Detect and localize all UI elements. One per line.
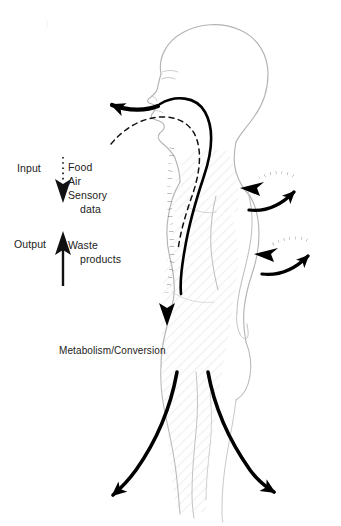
human-figure-diagram-canvas xyxy=(0,0,341,526)
eye-detail xyxy=(162,78,175,80)
body-hatch-fill xyxy=(161,208,238,512)
intake-item-air: Air xyxy=(68,174,107,188)
output-label: Output xyxy=(14,238,46,251)
brow-detail xyxy=(162,71,178,73)
input-label: Input xyxy=(17,162,41,175)
torso-back-outline xyxy=(244,196,259,342)
waste-item-products: products xyxy=(68,252,121,266)
mouth-exhale-arrow xyxy=(112,105,158,110)
waste-items-label: Waste products xyxy=(68,238,121,266)
diagram-root: Input Food Air Sensory data Output Waste… xyxy=(0,0,341,526)
lower-exchange-dotted-inbound-arrow xyxy=(254,238,307,262)
hand-outline xyxy=(237,312,249,339)
faint-top-mark xyxy=(46,18,48,29)
hip-outline xyxy=(236,342,251,400)
intake-items-label: Food Air Sensory data xyxy=(68,160,107,216)
nostril-detail xyxy=(152,96,157,101)
upper-inbound-arrowhead xyxy=(240,182,264,196)
metabolism-label: Metabolism/Conversion xyxy=(59,344,166,357)
head-outline xyxy=(160,25,268,142)
leg-far-outline xyxy=(222,400,236,522)
intake-item-sensory: Sensory xyxy=(68,188,107,202)
intake-item-food: Food xyxy=(68,160,107,174)
intake-item-data: data xyxy=(68,202,107,216)
waste-item-waste: Waste xyxy=(68,238,121,252)
face-profile-outline xyxy=(148,74,175,158)
